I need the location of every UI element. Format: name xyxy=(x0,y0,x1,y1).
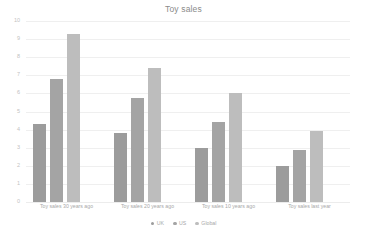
y-axis: 012345678910 xyxy=(0,21,24,202)
y-axis-tick-label: 10 xyxy=(14,18,20,24)
y-axis-tick-label: 8 xyxy=(17,54,20,60)
chart-container: Toy sales 012345678910 Toy sales 30 year… xyxy=(0,0,367,235)
x-axis-tick-label: Toy sales last year xyxy=(269,204,350,210)
legend-label: UK xyxy=(157,221,164,226)
x-axis-tick-label: Toy sales 10 years ago xyxy=(188,204,269,210)
bar-us[interactable] xyxy=(212,122,226,202)
bar-group xyxy=(107,21,188,202)
bar-uk[interactable] xyxy=(195,148,209,202)
y-axis-tick-label: 7 xyxy=(17,73,20,79)
x-axis-tick-label: Toy sales 20 years ago xyxy=(107,204,188,210)
bar-global[interactable] xyxy=(310,131,324,202)
bar-us[interactable] xyxy=(50,79,64,202)
legend-item-uk[interactable]: UK xyxy=(151,221,164,226)
y-axis-tick-label: 0 xyxy=(17,199,20,205)
bar-global[interactable] xyxy=(229,93,243,202)
legend-swatch-icon xyxy=(151,222,155,226)
bar-global[interactable] xyxy=(148,68,162,202)
y-axis-tick-label: 4 xyxy=(17,127,20,133)
x-axis-tick-label: Toy sales 30 years ago xyxy=(26,204,107,210)
bar-uk[interactable] xyxy=(114,133,128,202)
bar-uk[interactable] xyxy=(276,166,290,202)
y-axis-tick-label: 5 xyxy=(17,109,20,115)
legend-swatch-icon xyxy=(195,222,199,226)
y-axis-tick-label: 6 xyxy=(17,91,20,97)
legend-item-us[interactable]: US xyxy=(173,221,186,226)
legend-swatch-icon xyxy=(173,222,177,226)
bar-group xyxy=(188,21,269,202)
bar-uk[interactable] xyxy=(33,124,47,202)
y-axis-tick-label: 2 xyxy=(17,163,20,169)
legend-label: Global xyxy=(201,221,216,226)
bar-group xyxy=(269,21,350,202)
y-axis-tick-label: 9 xyxy=(17,36,20,42)
bar-us[interactable] xyxy=(293,150,307,202)
bar-group xyxy=(26,21,107,202)
chart-legend: UKUSGlobal xyxy=(0,221,367,226)
legend-item-global[interactable]: Global xyxy=(195,221,216,226)
legend-label: US xyxy=(179,221,186,226)
y-axis-tick-label: 3 xyxy=(17,145,20,151)
y-axis-tick-label: 1 xyxy=(17,181,20,187)
bars-layer xyxy=(26,21,350,202)
chart-title: Toy sales xyxy=(0,4,367,14)
bar-global[interactable] xyxy=(67,34,81,202)
bar-us[interactable] xyxy=(131,98,145,202)
x-axis: Toy sales 30 years agoToy sales 20 years… xyxy=(26,204,350,216)
